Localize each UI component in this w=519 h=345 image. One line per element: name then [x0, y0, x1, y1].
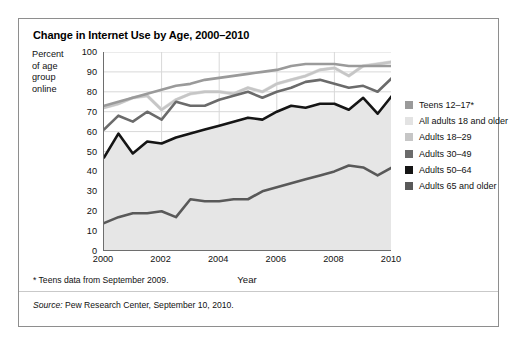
- legend-item[interactable]: Adults 50–64: [405, 162, 517, 178]
- legend-item[interactable]: Adults 18–29: [405, 129, 517, 145]
- legend-item-label: All adults 18 and older: [419, 116, 508, 126]
- y-axis-tick-label: 70: [57, 107, 97, 117]
- legend-swatch-icon: [405, 101, 413, 109]
- legend-swatch-icon: [405, 182, 413, 190]
- y-axis-tick-label: 60: [57, 127, 97, 137]
- x-axis-tick-label: 2010: [381, 254, 401, 264]
- y-axis-tick-label: 0: [57, 246, 97, 256]
- figure-container: Change in Internet Use by Age, 2000–2010…: [18, 18, 499, 327]
- chart-title: Change in Internet Use by Age, 2000–2010: [33, 29, 249, 41]
- y-axis-tick-label: 50: [57, 147, 97, 157]
- source-text: Pew Research Center, September 10, 2010.: [63, 300, 234, 310]
- legend-item[interactable]: Adults 30–49: [405, 146, 517, 162]
- legend-swatch-icon: [405, 150, 413, 158]
- series-line: [104, 62, 391, 110]
- y-axis-tick-label: 40: [57, 166, 97, 176]
- legend: Teens 12–17* All adults 18 and older Adu…: [405, 97, 517, 194]
- x-axis-tick-label: 2008: [323, 254, 343, 264]
- x-axis-tick-label: 2000: [93, 254, 113, 264]
- legend-item[interactable]: Teens 12–17*: [405, 97, 517, 113]
- footnote-teens-data: * Teens data from September 2009.: [33, 275, 169, 285]
- legend-item[interactable]: All adults 18 and older: [405, 113, 517, 129]
- y-axis-tick-label: 80: [57, 87, 97, 97]
- y-axis-tick-label: 30: [57, 186, 97, 196]
- plot-area: [103, 52, 391, 251]
- series-line: [104, 62, 391, 110]
- source-label: Source:: [33, 300, 63, 310]
- plot-wrapper: 0102030405060708090100 20002002200420062…: [81, 48, 391, 265]
- legend-swatch-icon: [405, 117, 413, 125]
- x-axis-tick-label: 2004: [208, 254, 228, 264]
- legend-item-label: Adults 30–49: [419, 149, 472, 159]
- y-axis-tick-label: 100: [57, 47, 97, 57]
- x-axis-tick-label: 2002: [150, 254, 170, 264]
- legend-swatch-icon: [405, 166, 413, 174]
- y-axis-tick-label: 90: [57, 67, 97, 77]
- series-line: [104, 64, 391, 106]
- source-note: Source: Pew Research Center, September 1…: [33, 300, 234, 310]
- y-axis-tick-label: 10: [57, 226, 97, 236]
- line-chart-svg: [104, 52, 391, 251]
- x-axis-tick-label: 2006: [266, 254, 286, 264]
- y-axis-tick-label: 20: [57, 206, 97, 216]
- legend-item-label: Adults 18–29: [419, 132, 472, 142]
- legend-item-label: Adults 50–64: [419, 165, 472, 175]
- legend-swatch-icon: [405, 133, 413, 141]
- legend-item-label: Teens 12–17*: [419, 100, 474, 110]
- legend-item[interactable]: Adults 65 and older: [405, 178, 517, 194]
- legend-item-label: Adults 65 and older: [419, 181, 497, 191]
- footer-divider: [19, 291, 498, 292]
